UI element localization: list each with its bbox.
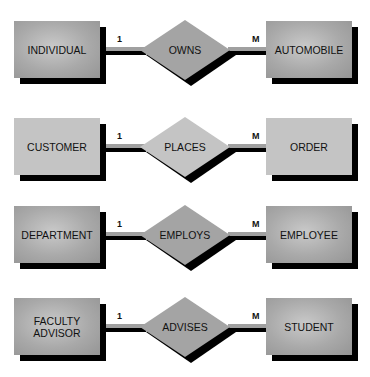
entity-department: DEPARTMENT bbox=[14, 206, 100, 263]
relationship-label: ADVISES bbox=[140, 297, 230, 357]
cardinality-one: 1 bbox=[117, 219, 122, 229]
entity-label: CUSTOMER bbox=[27, 141, 87, 153]
entity-faculty-advisor: FACULTY ADVISOR bbox=[14, 298, 100, 355]
relationship-row-advises: FACULTY ADVISOR ADVISES STUDENT 1 M bbox=[0, 298, 370, 377]
entity-student: STUDENT bbox=[266, 298, 352, 355]
entity-label: DEPARTMENT bbox=[21, 229, 92, 241]
cardinality-many: M bbox=[252, 34, 260, 44]
entity-label: STUDENT bbox=[284, 321, 334, 333]
relationship-owns: OWNS bbox=[140, 20, 236, 86]
er-diagram: INDIVIDUAL OWNS AUTOMOBILE 1 M CUSTOMER … bbox=[0, 0, 370, 377]
relationship-label: PLACES bbox=[140, 117, 230, 177]
cardinality-many: M bbox=[252, 219, 260, 229]
cardinality-many: M bbox=[252, 311, 260, 321]
entity-automobile: AUTOMOBILE bbox=[266, 21, 352, 78]
entity-label: FACULTY ADVISOR bbox=[33, 315, 80, 339]
entity-order: ORDER bbox=[266, 118, 352, 175]
cardinality-many: M bbox=[252, 131, 260, 141]
relationship-label: EMPLOYS bbox=[140, 205, 230, 265]
relationship-advises: ADVISES bbox=[140, 297, 236, 363]
entity-individual: INDIVIDUAL bbox=[14, 21, 100, 78]
entity-label: INDIVIDUAL bbox=[28, 44, 87, 56]
cardinality-one: 1 bbox=[117, 34, 122, 44]
entity-customer: CUSTOMER bbox=[14, 118, 100, 175]
entity-employee: EMPLOYEE bbox=[266, 206, 352, 263]
relationship-employs: EMPLOYS bbox=[140, 205, 236, 271]
entity-label: EMPLOYEE bbox=[280, 229, 338, 241]
cardinality-one: 1 bbox=[117, 131, 122, 141]
relationship-row-places: CUSTOMER PLACES ORDER 1 M bbox=[0, 118, 370, 198]
relationship-places: PLACES bbox=[140, 117, 236, 183]
relationship-row-employs: DEPARTMENT EMPLOYS EMPLOYEE 1 M bbox=[0, 206, 370, 286]
entity-label: AUTOMOBILE bbox=[275, 44, 344, 56]
cardinality-one: 1 bbox=[117, 311, 122, 321]
relationship-label: OWNS bbox=[140, 20, 230, 80]
entity-label: ORDER bbox=[290, 141, 328, 153]
relationship-row-owns: INDIVIDUAL OWNS AUTOMOBILE 1 M bbox=[0, 21, 370, 101]
